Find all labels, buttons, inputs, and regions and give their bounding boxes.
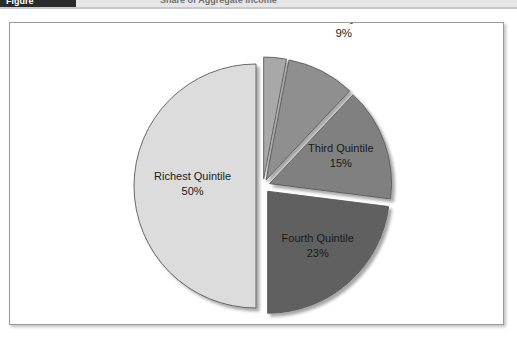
header-divider (0, 7, 517, 9)
pie-slice-value-label: 9% (335, 27, 352, 39)
pie-slice-value-label: 23% (307, 247, 329, 259)
pie-slice-name-label: Third Quintile (308, 142, 373, 154)
pie-slice-value-label: 50% (182, 185, 204, 197)
pie-slice-value-label: 15% (330, 157, 352, 169)
chart-panel: Poorest Quintile3%Second Quintile9%Third… (9, 22, 504, 325)
pie-chart: Poorest Quintile3%Second Quintile9%Third… (10, 23, 503, 324)
pie-slice-name-label: Richest Quintile (154, 170, 231, 182)
pie-slice-name-label: Second Quintile (303, 23, 384, 24)
figure-title: Share of Aggregate Income (160, 0, 277, 5)
header-strip: Figure Share of Aggregate Income (0, 0, 517, 9)
pie-slices (134, 57, 392, 313)
pie-slice-name-label: Fourth Quintile (282, 232, 354, 244)
figure-number-label: Figure (6, 0, 34, 6)
